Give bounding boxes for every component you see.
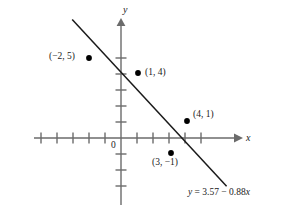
- regression-line: [72, 20, 226, 187]
- data-point: [135, 70, 141, 76]
- origin-label: 0: [111, 141, 116, 151]
- equation-label: y = 3.57 − 0.88x: [188, 188, 250, 198]
- equation-variable: x: [246, 187, 250, 197]
- data-point: [86, 55, 92, 61]
- x-axis-label: x: [246, 133, 250, 143]
- data-point: [168, 150, 174, 156]
- equation-intercept: 3.57: [202, 187, 219, 197]
- point-label-1-4: (1, 4): [145, 68, 166, 78]
- equation-equals: =: [195, 187, 200, 197]
- x-axis: [34, 134, 243, 143]
- data-point: [184, 118, 190, 124]
- equation-slope: 0.88: [229, 187, 246, 197]
- y-axis-label: y: [123, 5, 127, 15]
- scatter-plot-figure: y x 0 (−2, 5) (1, 4) (4, 1) (3, −1) y = …: [0, 0, 286, 220]
- y-axis: [117, 18, 126, 205]
- point-label-3-neg1: (3, −1): [152, 158, 178, 168]
- equation-minus: −: [221, 187, 226, 197]
- point-label-neg2-5: (−2, 5): [49, 52, 75, 62]
- point-label-4-1: (4, 1): [193, 110, 214, 120]
